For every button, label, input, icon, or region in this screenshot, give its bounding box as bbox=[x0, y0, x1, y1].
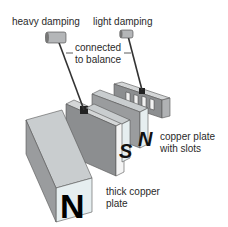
label-copper-plate-with-slots: copper plate with slots bbox=[160, 131, 215, 155]
pole-front-n: N bbox=[60, 187, 85, 225]
label-light-damping: light damping bbox=[93, 16, 152, 28]
label-thick-copper-plate: thick copper plate bbox=[106, 186, 160, 210]
pole-back-n: N bbox=[138, 128, 153, 150]
heavy-damping-handle bbox=[45, 32, 66, 43]
pole-middle-s: S bbox=[119, 140, 133, 162]
light-damping-rod bbox=[128, 36, 142, 90]
label-connected-to-balance: connected to balance bbox=[75, 42, 121, 66]
light-damping-handle bbox=[120, 30, 134, 38]
label-heavy-damping: heavy damping bbox=[12, 16, 80, 28]
